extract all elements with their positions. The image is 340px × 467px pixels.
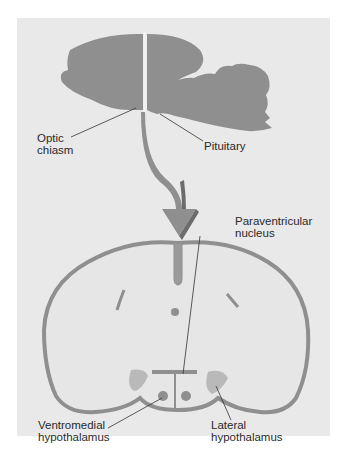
label-lateral-hypothalamus: Lateral hypothalamus — [211, 419, 283, 443]
coronal-section — [44, 242, 308, 412]
curved-arrow-icon — [141, 112, 199, 240]
optic-chiasm-leader — [71, 108, 136, 137]
label-ventromedial-hypothalamus: Ventromedial hypothalamus — [38, 419, 110, 443]
label-paraventricular-nucleus: Paraventricular nucleus — [235, 215, 312, 239]
label-pituitary: Pituitary — [204, 140, 246, 152]
sagittal-brain — [61, 32, 272, 131]
label-optic-chiasm: Optic chiasm — [37, 132, 73, 156]
